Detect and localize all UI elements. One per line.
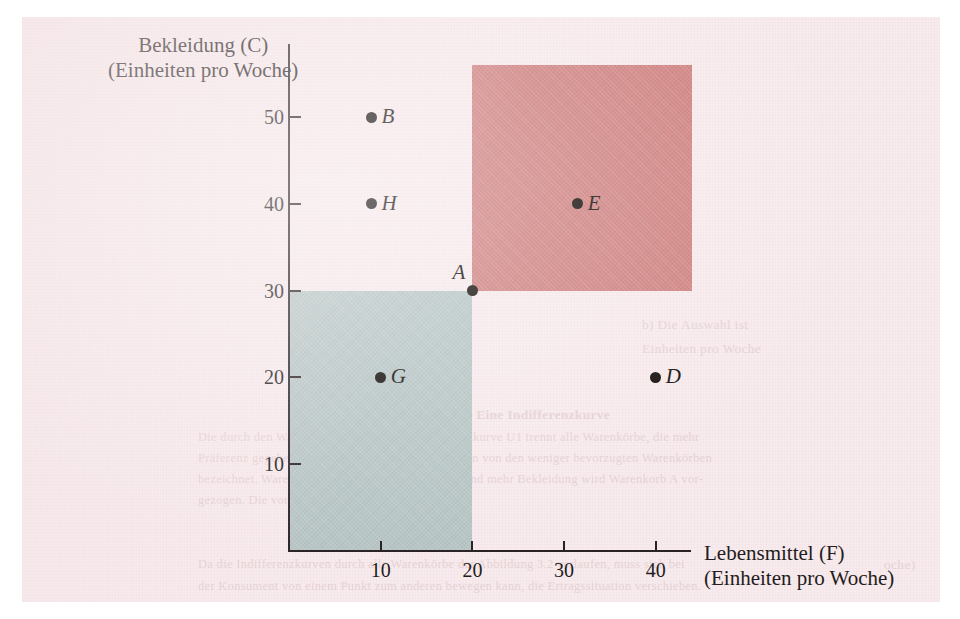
y-tick-50	[290, 116, 301, 118]
x-axis-title: Lebensmittel (F) (Einheiten pro Woche)	[704, 541, 894, 591]
y-axis-line	[288, 44, 290, 552]
x-tick-label-20: 20	[447, 560, 497, 580]
x-axis-title-sub: (Einheiten pro Woche)	[704, 566, 894, 591]
y-tick-label-40: 40	[240, 194, 284, 214]
x-axis-line	[288, 550, 691, 552]
y-tick-10	[290, 463, 301, 465]
x-tick-40	[655, 541, 657, 552]
data-point-label-D: D	[666, 366, 681, 387]
region-red-texture	[472, 65, 692, 291]
y-tick-30	[290, 290, 301, 292]
y-tick-label-30: 30	[240, 281, 284, 301]
y-tick-label-50: 50	[240, 107, 284, 127]
data-point-B	[366, 112, 377, 123]
y-tick-label-10: 10	[240, 454, 284, 474]
data-point-G	[375, 372, 386, 383]
x-tick-10	[380, 541, 382, 552]
x-tick-30	[563, 541, 565, 552]
figure-panel: b) Die Auswahl ist Einheiten pro Woche A…	[22, 17, 940, 602]
y-tick-label-20: 20	[240, 367, 284, 387]
y-axis-title-text: Bekleidung (C)	[138, 33, 268, 57]
data-point-label-H: H	[382, 193, 397, 214]
x-tick-20	[471, 541, 473, 552]
region-less-preferred-than-A	[289, 291, 472, 551]
data-point-D	[650, 372, 661, 383]
x-tick-label-10: 10	[356, 560, 406, 580]
data-point-label-A: A	[452, 262, 465, 283]
x-axis-title-main: Lebensmittel (F)	[704, 541, 894, 566]
y-axis-title-main: Bekleidung (C)	[108, 33, 298, 58]
data-point-H	[366, 198, 377, 209]
x-tick-label-40: 40	[631, 560, 681, 580]
x-tick-label-30: 30	[539, 560, 589, 580]
scatter-plot: 1020304050 10203040 BHAEGD Bekleidung (C…	[22, 17, 940, 602]
region-preferred-to-A	[472, 65, 692, 291]
data-point-A	[467, 285, 478, 296]
y-tick-40	[290, 203, 301, 205]
y-axis-title: Bekleidung (C) (Einheiten pro Woche)	[108, 33, 298, 83]
y-tick-20	[290, 376, 301, 378]
data-point-label-B: B	[382, 106, 395, 127]
region-blue-texture	[289, 291, 472, 551]
y-axis-title-sub: (Einheiten pro Woche)	[108, 58, 298, 83]
data-point-label-E: E	[588, 193, 601, 214]
data-point-label-G: G	[391, 366, 406, 387]
